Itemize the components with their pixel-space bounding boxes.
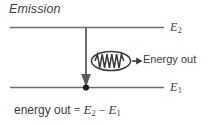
equation-minus-sign: −	[96, 103, 109, 117]
energy-level-subscript-lower: 1	[178, 86, 182, 95]
equation-equals-sign: =	[71, 103, 84, 117]
equation-term2: E1	[108, 102, 120, 117]
energy-level-label-upper: E2	[170, 21, 181, 33]
emission-energy-level-diagram: Emission E2 E1 Energy out energy out=E2−…	[0, 0, 209, 126]
energy-out-caption: Energy out	[143, 54, 196, 65]
energy-level-subscript-upper: 2	[178, 26, 182, 35]
electron-dot	[83, 84, 89, 90]
energy-level-label-lower: E1	[170, 81, 181, 93]
equation-left-words: energy out	[14, 103, 71, 117]
equation-term1: E2	[84, 102, 96, 117]
equation-term2-subscript: 1	[116, 108, 120, 118]
equation: energy out=E2−E1	[14, 103, 121, 116]
equation-term1-subscript: 2	[91, 108, 95, 118]
photon-zigzag-wave	[95, 54, 124, 68]
energy-level-symbol-upper: E	[170, 20, 177, 34]
energy-level-symbol-lower: E	[170, 80, 177, 94]
arrow-right-icon	[136, 58, 142, 65]
